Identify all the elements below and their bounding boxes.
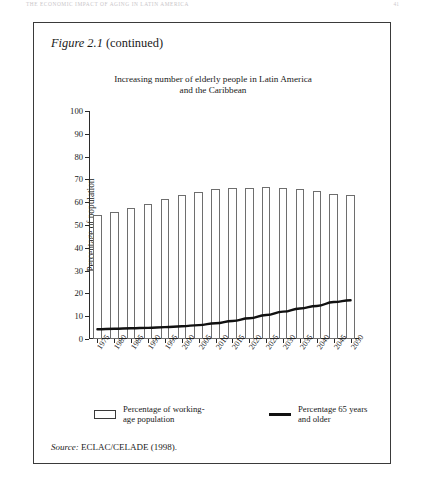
- x-tick-mark-1985: [131, 339, 132, 343]
- y-tick-mark-60: [85, 202, 89, 203]
- legend-label-line-2: and older: [298, 414, 413, 424]
- legend-label-working-age-population: Percentage of working-age population: [123, 404, 238, 425]
- x-tick-mark-2045: [334, 339, 335, 343]
- figure-label: Figure 2.1: [51, 36, 103, 50]
- y-tick-label-10: 10: [74, 311, 83, 321]
- x-tick-mark-2050: [351, 339, 352, 343]
- y-tick-mark-10: [85, 316, 89, 317]
- y-tick-mark-40: [85, 248, 89, 249]
- x-tick-mark-2015: [232, 339, 233, 343]
- y-tick-label-100: 100: [70, 106, 83, 116]
- legend-label-line-2: age population: [123, 414, 238, 424]
- y-tick-label-0: 0: [79, 334, 83, 344]
- legend-label-line-1: Percentage of working-: [123, 404, 238, 414]
- y-tick-mark-100: [85, 111, 89, 112]
- figure-caption: Figure 2.1 (continued): [51, 36, 163, 51]
- figure-continued-label: (continued): [106, 36, 163, 50]
- page-number: 41: [394, 1, 399, 7]
- line-series: [89, 111, 359, 339]
- chart-title-line-1: Increasing number of elderly people in L…: [34, 74, 392, 85]
- x-tick-mark-1975: [97, 339, 98, 343]
- figure-box: Figure 2.1 (continued) Increasing number…: [33, 22, 391, 464]
- x-tick-mark-1980: [114, 339, 115, 343]
- legend-label-elderly-population: Percentage 65 yearsand older: [298, 404, 413, 425]
- y-tick-mark-0: [85, 339, 89, 340]
- x-tick-mark-2025: [266, 339, 267, 343]
- elderly-percentage-line: [97, 300, 350, 329]
- source-label: Source:: [51, 442, 79, 452]
- y-tick-label-30: 30: [74, 266, 83, 276]
- y-tick-mark-20: [85, 293, 89, 294]
- x-tick-mark-2000: [182, 339, 183, 343]
- x-tick-mark-2030: [283, 339, 284, 343]
- chart-title: Increasing number of elderly people in L…: [34, 74, 392, 97]
- y-tick-label-50: 50: [74, 220, 83, 230]
- y-tick-mark-50: [85, 225, 89, 226]
- running-head: THE ECONOMIC IMPACT OF AGING IN LATIN AM…: [0, 0, 423, 14]
- legend-label-line-1: Percentage 65 years: [298, 404, 413, 414]
- x-tick-mark-2005: [199, 339, 200, 343]
- y-tick-mark-80: [85, 157, 89, 158]
- chart-title-line-2: and the Caribbean: [34, 85, 392, 96]
- y-tick-label-70: 70: [74, 174, 83, 184]
- x-tick-mark-2040: [317, 339, 318, 343]
- source-note: Source: ECLAC/CELADE (1998).: [51, 442, 177, 452]
- y-tick-label-80: 80: [74, 152, 83, 162]
- x-tick-mark-1995: [165, 339, 166, 343]
- y-tick-mark-30: [85, 271, 89, 272]
- y-tick-mark-90: [85, 134, 89, 135]
- source-text: ECLAC/CELADE (1998).: [81, 442, 177, 452]
- y-tick-label-40: 40: [74, 243, 83, 253]
- plot-area: Percentage of population 010203040506070…: [89, 111, 359, 339]
- legend-swatch-elderly-population: [269, 413, 291, 416]
- chart-legend: Percentage of working-age populationPerc…: [94, 405, 394, 439]
- y-axis-labels: 0102030405060708090100: [57, 111, 83, 339]
- x-tick-mark-2010: [216, 339, 217, 343]
- y-tick-label-20: 20: [74, 288, 83, 298]
- running-head-title: THE ECONOMIC IMPACT OF AGING IN LATIN AM…: [26, 1, 189, 7]
- x-tick-mark-2035: [300, 339, 301, 343]
- y-tick-mark-70: [85, 179, 89, 180]
- x-tick-mark-2020: [249, 339, 250, 343]
- x-tick-mark-1990: [148, 339, 149, 343]
- y-tick-label-90: 90: [74, 129, 83, 139]
- y-tick-label-60: 60: [74, 197, 83, 207]
- legend-swatch-working-age-population: [94, 410, 116, 419]
